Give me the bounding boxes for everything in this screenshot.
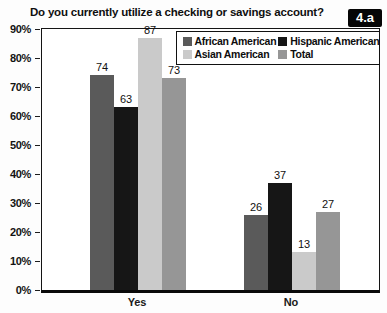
legend-item: Asian American xyxy=(183,48,277,60)
bar-value-label: 26 xyxy=(250,201,262,213)
x-axis-labels: YesNo xyxy=(41,296,378,312)
y-axis-tick xyxy=(35,174,40,176)
y-axis-tick-label: 0% xyxy=(16,284,31,296)
y-axis-tick-label: 20% xyxy=(10,226,31,238)
bar-total-no xyxy=(316,212,340,290)
y-axis-tick xyxy=(35,58,40,60)
bar-hispanic-american-no xyxy=(268,183,292,290)
bar-value-label: 27 xyxy=(322,198,334,210)
x-axis-category-label: No xyxy=(284,296,298,308)
y-axis-tick-label: 50% xyxy=(10,139,31,151)
bar-value-label: 87 xyxy=(144,24,156,36)
bar-value-label: 74 xyxy=(96,61,108,73)
bar-value-label: 37 xyxy=(274,169,286,181)
bar-african-american-yes xyxy=(90,75,114,290)
bar-asian-american-no xyxy=(292,252,316,290)
bar-hispanic-american-yes xyxy=(114,107,138,290)
legend-label: Total xyxy=(290,48,313,60)
bar-asian-american-yes xyxy=(138,38,162,290)
legend-item: Total xyxy=(278,48,379,60)
legend-item: African American xyxy=(183,35,277,47)
bar-value-label: 63 xyxy=(120,93,132,105)
legend: African AmericanHispanic AmericanAsian A… xyxy=(176,31,380,65)
legend-item: Hispanic American xyxy=(278,35,379,47)
y-axis-tick xyxy=(35,290,40,292)
x-axis-category-label: Yes xyxy=(128,296,146,308)
y-axis-tick-label: 30% xyxy=(10,197,31,209)
legend-label: Asian American xyxy=(195,48,270,60)
y-axis-tick-label: 60% xyxy=(10,110,31,122)
chart-title: Do you currently utilize a checking or s… xyxy=(30,6,324,18)
y-axis-tick xyxy=(35,261,40,263)
y-axis-tick xyxy=(35,87,40,89)
y-axis-tick-label: 10% xyxy=(10,255,31,267)
figure: OF FINANCIAL SERVICES Do you currently u… xyxy=(0,0,387,313)
y-axis-tick xyxy=(35,203,40,205)
legend-label: Hispanic American xyxy=(290,35,379,47)
plot-area: African AmericanHispanic AmericanAsian A… xyxy=(41,28,380,293)
y-axis-tick-label: 70% xyxy=(10,81,31,93)
legend-swatch-icon xyxy=(278,37,287,46)
y-axis-tick xyxy=(35,232,40,234)
bar-total-yes xyxy=(162,78,186,290)
legend-swatch-icon xyxy=(183,37,192,46)
legend-swatch-icon xyxy=(278,50,287,59)
figure-number-badge: 4.a xyxy=(348,9,382,27)
bar-african-american-no xyxy=(244,215,268,290)
bar-value-label: 73 xyxy=(168,64,180,76)
legend-swatch-icon xyxy=(183,50,192,59)
clipped-page-heading-text: OF FINANCIAL SERVICES xyxy=(0,0,387,3)
bar-value-label: 13 xyxy=(298,238,310,250)
y-axis: 90%80%70%60%50%40%30%20%10%0% xyxy=(0,29,41,290)
y-axis-tick xyxy=(35,145,40,147)
y-axis-tick-label: 90% xyxy=(10,23,31,35)
y-axis-tick-label: 80% xyxy=(10,52,31,64)
legend-label: African American xyxy=(195,35,277,47)
y-axis-tick-label: 40% xyxy=(10,168,31,180)
y-axis-tick xyxy=(35,116,40,118)
y-axis-tick xyxy=(35,29,40,31)
clipped-page-heading: OF FINANCIAL SERVICES xyxy=(0,0,387,3)
